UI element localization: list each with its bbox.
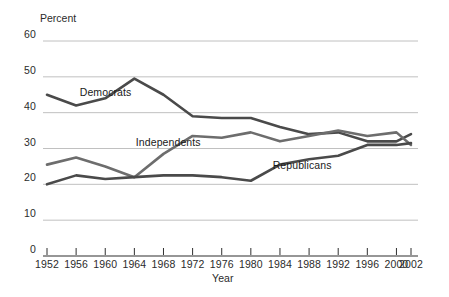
x-axis-tick-label: 1972 (179, 258, 207, 270)
x-axis-tick-label: 1996 (353, 258, 381, 270)
x-axis-tick-label: 1980 (237, 258, 265, 270)
x-axis-title: Year (212, 272, 234, 284)
y-axis-tick-label: 20 (14, 171, 36, 183)
series-annotation-republicans: Republicans (273, 159, 332, 171)
plot-area (0, 0, 449, 297)
x-axis-tick-label: 1992 (324, 258, 352, 270)
x-axis-tick-label: 1960 (91, 258, 119, 270)
chart-container: Percent Year 010203040506019521956196019… (0, 0, 449, 297)
y-axis-tick-label: 50 (14, 64, 36, 76)
x-axis-tick-label: 1988 (295, 258, 323, 270)
y-axis-tick-label: 60 (14, 28, 36, 40)
series-annotation-democrats: Democrats (80, 86, 132, 98)
y-axis-tick-label: 40 (14, 100, 36, 112)
y-axis-tick-label: 30 (14, 136, 36, 148)
x-axis-tick-label: 1952 (33, 258, 61, 270)
series-annotation-independents: Independents (136, 136, 201, 148)
x-axis-tick-label: 1964 (120, 258, 148, 270)
y-axis-tick-label: 10 (14, 207, 36, 219)
x-axis-tick-label: 1968 (149, 258, 177, 270)
series-line-republicans (47, 143, 411, 184)
x-axis-tick-label: 1984 (266, 258, 294, 270)
x-axis-tick-label: 1976 (208, 258, 236, 270)
x-axis-tick-label: 1956 (62, 258, 90, 270)
x-axis-tick-label: 2002 (397, 258, 425, 270)
y-axis-tick-label: 0 (14, 243, 36, 255)
